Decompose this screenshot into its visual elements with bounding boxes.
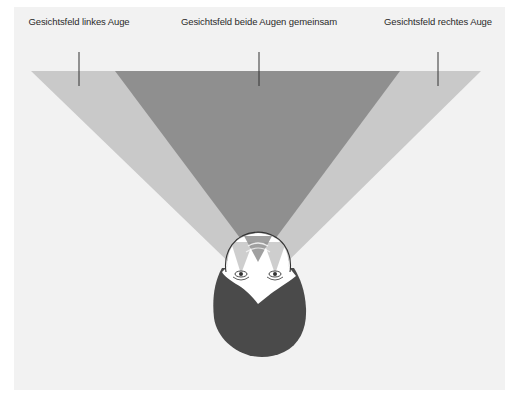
visual-field-diagram bbox=[0, 0, 518, 403]
